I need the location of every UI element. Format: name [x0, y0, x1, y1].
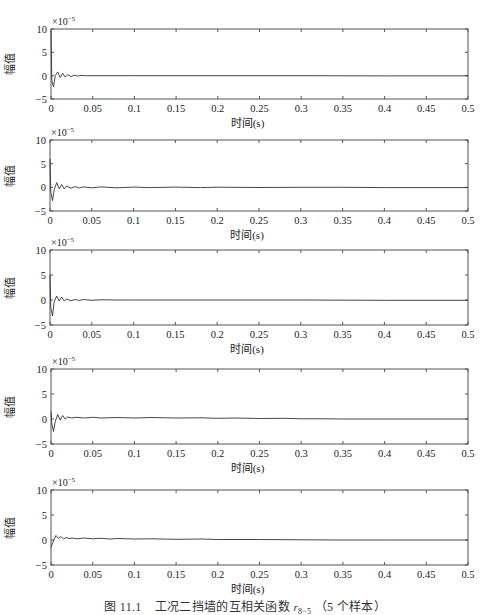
y-tick-label: 10	[37, 24, 48, 35]
subplot-1: 00.050.10.150.20.250.30.350.40.450.5−505…	[4, 15, 475, 130]
x-tick-label: 0.25	[250, 329, 268, 340]
x-tick-label: 0.4	[378, 103, 392, 114]
x-tick-label: 0.15	[166, 215, 184, 226]
y-tick-label: 0	[42, 414, 47, 425]
x-tick-label: 0.35	[334, 448, 352, 459]
x-tick-label: 0.45	[417, 215, 435, 226]
y-tick-label: 5	[41, 270, 46, 281]
y-tick-label: 10	[36, 245, 47, 256]
y-tick-label: 5	[42, 510, 47, 521]
x-tick-label: 0.45	[417, 569, 435, 580]
caption-variable: r8−5	[293, 601, 311, 613]
x-tick-label: 0.45	[417, 329, 435, 340]
caption-text: 工况二挡墙的互相关函数	[155, 600, 290, 614]
x-tick-label: 0.15	[167, 103, 185, 114]
y-tick-label: 10	[37, 364, 48, 375]
exponent-label: ×10−5	[52, 355, 76, 367]
x-tick-label: 0	[48, 103, 53, 114]
x-tick-label: 0.45	[417, 448, 435, 459]
x-tick-label: 0.2	[211, 215, 224, 226]
x-tick-label: 0.05	[84, 569, 102, 580]
exponent-label: ×10−5	[52, 476, 76, 488]
y-tick-label: −5	[36, 94, 47, 105]
axes-box	[50, 140, 468, 211]
x-tick-label: 0.35	[333, 329, 351, 340]
x-axis-label: 时间(s)	[230, 343, 264, 356]
axes-box	[51, 369, 468, 444]
y-tick-label: 10	[37, 485, 48, 496]
subplot-4: 00.050.10.150.20.250.30.350.40.450.5−505…	[4, 355, 475, 475]
axes-box	[50, 250, 468, 325]
x-tick-label: 0.1	[127, 215, 140, 226]
x-tick-label: 0.1	[128, 569, 141, 580]
x-tick-label: 0.5	[461, 329, 474, 340]
x-tick-label: 0.45	[417, 103, 435, 114]
x-axis-label: 时间(s)	[231, 583, 265, 596]
x-tick-label: 0.3	[295, 103, 308, 114]
y-tick-label: 10	[36, 135, 47, 146]
x-tick-label: 0.05	[84, 103, 102, 114]
y-tick-label: 5	[42, 47, 47, 58]
x-tick-label: 0.3	[295, 569, 308, 580]
x-tick-label: 0.5	[461, 569, 474, 580]
x-tick-label: 0.25	[250, 215, 268, 226]
figure-caption: 图 11.1 工况二挡墙的互相关函数 r8−5 （5 个样本）	[0, 597, 490, 615]
x-tick-label: 0.5	[461, 215, 474, 226]
x-tick-label: 0.2	[211, 103, 224, 114]
x-tick-label: 0.5	[461, 103, 474, 114]
x-axis-label: 时间(s)	[231, 117, 265, 130]
data-line	[51, 412, 468, 432]
y-tick-label: −5	[36, 439, 47, 450]
x-tick-label: 0.25	[250, 448, 268, 459]
exponent-label: ×10−5	[52, 15, 76, 27]
y-axis-label: 幅值	[4, 165, 16, 187]
x-axis-label: 时间(s)	[230, 229, 264, 242]
x-tick-label: 0	[48, 448, 53, 459]
x-tick-label: 0.1	[128, 448, 141, 459]
axes-box	[51, 490, 468, 565]
y-tick-label: −5	[35, 206, 46, 217]
x-tick-label: 0.25	[250, 569, 268, 580]
y-tick-label: 0	[41, 182, 46, 193]
x-tick-label: 0.2	[211, 329, 224, 340]
y-axis-label: 幅值	[4, 517, 16, 539]
data-line	[51, 536, 468, 548]
y-tick-label: −5	[36, 560, 47, 571]
x-tick-label: 0.2	[211, 569, 224, 580]
data-line	[51, 31, 468, 87]
y-tick-label: 5	[42, 389, 47, 400]
data-line	[50, 275, 468, 316]
x-tick-label: 0.3	[294, 215, 307, 226]
exponent-label: ×10−5	[51, 236, 75, 248]
x-tick-label: 0.3	[295, 448, 308, 459]
y-tick-label: 0	[41, 295, 46, 306]
subplot-2: 00.050.10.150.20.250.30.350.40.450.5−505…	[4, 126, 475, 242]
caption-suffix: （5 个样本）	[315, 600, 386, 614]
x-tick-label: 0.15	[166, 329, 184, 340]
figure: 00.050.10.150.20.250.30.350.40.450.5−505…	[0, 0, 490, 615]
x-tick-label: 0.15	[167, 569, 185, 580]
axes-box	[51, 29, 468, 99]
y-axis-label: 幅值	[4, 396, 16, 418]
x-tick-label: 0.4	[378, 448, 392, 459]
exponent-label: ×10−5	[51, 126, 75, 138]
x-axis-label: 时间(s)	[231, 462, 265, 475]
y-axis-label: 幅值	[4, 53, 16, 75]
x-tick-label: 0.5	[461, 448, 474, 459]
x-tick-label: 0.1	[127, 329, 140, 340]
caption-prefix: 图 11.1	[104, 600, 141, 614]
subplot-5: 00.050.10.150.20.250.30.350.40.450.5−505…	[4, 476, 475, 596]
x-tick-label: 0	[47, 329, 52, 340]
x-tick-label: 0.35	[333, 215, 351, 226]
x-tick-label: 0.2	[211, 448, 224, 459]
x-tick-label: 0.05	[83, 329, 101, 340]
y-tick-label: 0	[42, 71, 47, 82]
x-tick-label: 0.4	[378, 329, 392, 340]
x-tick-label: 0.35	[334, 103, 352, 114]
x-tick-label: 0	[47, 215, 52, 226]
x-tick-label: 0.05	[84, 448, 102, 459]
x-tick-label: 0.35	[334, 569, 352, 580]
x-tick-label: 0.4	[378, 569, 392, 580]
x-tick-label: 0.25	[250, 103, 268, 114]
x-tick-label: 0.15	[167, 448, 185, 459]
